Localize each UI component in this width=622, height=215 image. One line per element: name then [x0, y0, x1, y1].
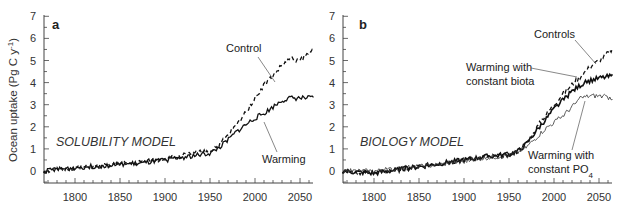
x-tick-label: 1900: [452, 191, 476, 203]
panel-a-letter: a: [52, 17, 60, 32]
x-tick-label: 2000: [243, 191, 267, 203]
y-tick-label: 7: [329, 10, 335, 22]
y-tick-label: 6: [329, 32, 335, 44]
y-tick-label: 7: [30, 10, 36, 22]
annotation-biota-line2: constant biota: [466, 75, 535, 87]
y-tick-label: 3: [30, 99, 36, 111]
x-tick-label: 1850: [108, 191, 132, 203]
y-tick-label: 4: [329, 77, 335, 89]
y-tick-label: 2: [30, 121, 36, 133]
y-tick-label: 5: [329, 55, 335, 67]
y-tick-label: 6: [30, 32, 36, 44]
annotation-control: Control: [226, 42, 261, 54]
x-tick-label: 2050: [587, 191, 611, 203]
panel-b-model-label: BIOLOGY MODEL: [360, 135, 464, 149]
x-tick-label: 1950: [198, 191, 222, 203]
y-tick-label: 0: [30, 165, 36, 177]
y-tick-label: 2: [329, 121, 335, 133]
annotation-warming: Warming: [262, 153, 306, 165]
x-tick-label: 1950: [497, 191, 521, 203]
x-tick-label: 2000: [542, 191, 566, 203]
annotation-po4-line1: Warming with: [528, 149, 594, 161]
x-tick-label: 2050: [288, 191, 312, 203]
annotation-controls: Controls: [534, 28, 575, 40]
annotation-po4-line2: constant PO4: [528, 163, 594, 180]
panel-a: 01234567180018501900195020002050: [30, 10, 314, 203]
series-line: [343, 94, 613, 173]
x-tick-label: 1900: [153, 191, 177, 203]
y-tick-label: 3: [329, 99, 335, 111]
x-tick-label: 1800: [362, 191, 386, 203]
y-axis-label: Ocean uptake (Pg C y-1): [6, 38, 20, 162]
ocean-uptake-chart: Ocean uptake (Pg C y-1) 0123456718001850…: [0, 0, 622, 215]
annotation-biota-line1: Warming with: [466, 61, 532, 73]
y-tick-label: 4: [30, 77, 36, 89]
y-tick-label: 1: [30, 143, 36, 155]
panel-a-model-label: SOLUBILITY MODEL: [56, 135, 176, 149]
x-tick-label: 1850: [407, 191, 431, 203]
y-tick-label: 0: [329, 165, 335, 177]
x-tick-label: 1800: [63, 191, 87, 203]
panel-b-letter: b: [359, 17, 367, 32]
y-tick-label: 1: [329, 143, 335, 155]
y-tick-label: 5: [30, 55, 36, 67]
